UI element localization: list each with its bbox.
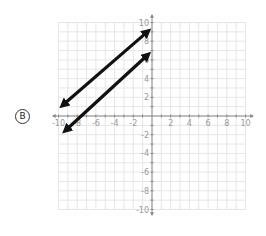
svg-text:4: 4 (187, 119, 192, 128)
svg-text:10: 10 (240, 119, 250, 128)
svg-text:-10: -10 (52, 119, 65, 128)
svg-text:-6: -6 (141, 168, 149, 177)
svg-text:4: 4 (144, 75, 149, 84)
svg-text:-6: -6 (92, 119, 100, 128)
coordinate-plane: -10-8-6-4-2246810-10-8-6-4-2246810 (0, 0, 266, 236)
svg-text:-2: -2 (141, 131, 149, 140)
svg-text:8: 8 (224, 119, 229, 128)
svg-text:-4: -4 (141, 149, 149, 158)
svg-text:6: 6 (206, 119, 211, 128)
svg-text:-10: -10 (136, 206, 149, 215)
svg-text:2: 2 (168, 119, 173, 128)
svg-text:2: 2 (144, 93, 149, 102)
svg-text:8: 8 (144, 37, 149, 46)
svg-text:-8: -8 (141, 187, 149, 196)
svg-text:-4: -4 (111, 119, 119, 128)
svg-text:10: 10 (139, 19, 149, 28)
svg-text:-2: -2 (129, 119, 137, 128)
